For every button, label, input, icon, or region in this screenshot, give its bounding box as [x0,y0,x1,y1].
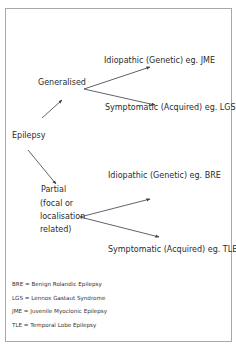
node-generalised-symptomatic: Symptomatic (Acquired) eg. LGS [105,103,236,113]
node-partial-line-2: (focal or [40,199,73,209]
node-partial-line-3: localisation [40,212,85,222]
arrow-generalised-to-idiopathic [84,67,150,89]
legend-item-jme: JME = Juvenile Myoclonic Epilepsy [12,305,107,319]
node-partial-line-1: Partial [41,185,66,195]
node-partial-symptomatic: Symptomatic (Acquired) eg. TLE [108,245,236,255]
arrow-epilepsy-to-partial [28,150,56,184]
arrow-epilepsy-to-generalised [42,100,62,118]
legend-item-lgs: LGS = Lennox Gastaut Syndrome [12,292,107,306]
legend-item-tle: TLE = Temporal Lobe Epilepsy [12,319,107,333]
node-generalised: Generalised [38,78,86,88]
arrow-partial-to-symptomatic [80,217,159,237]
legend-item-bre: BRE = Benign Rolandic Epilepsy [12,278,107,292]
node-partial-idiopathic: Idiopathic (Genetic) eg. BRE [108,171,221,181]
node-partial-line-4: related) [40,225,71,235]
node-generalised-idiopathic: Idiopathic (Genetic) eg. JME [104,56,215,66]
abbreviation-legend: BRE = Benign Rolandic Epilepsy LGS = Len… [12,278,107,333]
arrow-partial-to-idiopathic [80,199,150,217]
node-epilepsy: Epilepsy [12,131,45,141]
